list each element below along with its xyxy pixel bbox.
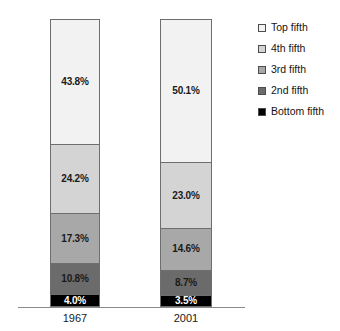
legend-item-label: 3rd fifth <box>271 64 306 75</box>
bar-segment-1967-2nd-fifth[interactable]: 10.8% <box>51 264 99 295</box>
legend-item-top-fifth[interactable]: Top fifth <box>258 17 340 38</box>
segment-value-label: 10.8% <box>61 274 88 284</box>
legend-item-label: Top fifth <box>271 22 308 33</box>
bar-segment-1967-top-fifth[interactable]: 43.8% <box>51 20 99 145</box>
segment-value-label: 4.0% <box>64 296 86 306</box>
x-axis-baseline <box>18 307 245 308</box>
segment-value-label: 8.7% <box>175 278 197 288</box>
segment-value-label: 24.2% <box>61 174 88 184</box>
segment-value-label: 17.3% <box>61 234 88 244</box>
legend-swatch-icon <box>258 108 266 116</box>
legend-swatch-icon <box>258 24 266 32</box>
legend: Top fifth 4th fifth 3rd fifth 2nd fifth … <box>258 17 340 122</box>
plot-area: 43.8% 24.2% 17.3% 10.8% 4.0% 50.1% 23.0% <box>0 0 250 331</box>
stacked-bar-1967[interactable]: 43.8% 24.2% 17.3% 10.8% 4.0% <box>50 19 100 307</box>
bar-segment-1967-4th-fifth[interactable]: 24.2% <box>51 145 99 214</box>
chart-figure: 43.8% 24.2% 17.3% 10.8% 4.0% 50.1% 23.0% <box>0 0 340 331</box>
legend-item-label: 2nd fifth <box>271 85 308 96</box>
bar-segment-2001-top-fifth[interactable]: 50.1% <box>161 20 211 163</box>
legend-item-2nd-fifth[interactable]: 2nd fifth <box>258 80 340 101</box>
legend-swatch-icon <box>258 66 266 74</box>
segment-value-label: 23.0% <box>172 191 199 201</box>
segment-value-label: 14.6% <box>172 244 199 254</box>
x-axis-tick-label-2001: 2001 <box>146 311 226 325</box>
legend-item-label: 4th fifth <box>271 43 305 54</box>
legend-item-4th-fifth[interactable]: 4th fifth <box>258 38 340 59</box>
bar-segment-2001-2nd-fifth[interactable]: 8.7% <box>161 271 211 296</box>
legend-item-bottom-fifth[interactable]: Bottom fifth <box>258 101 340 122</box>
bar-segment-2001-4th-fifth[interactable]: 23.0% <box>161 163 211 229</box>
legend-item-label: Bottom fifth <box>271 106 324 117</box>
bar-segment-2001-3rd-fifth[interactable]: 14.6% <box>161 229 211 271</box>
segment-value-label: 50.1% <box>172 86 199 96</box>
stacked-bar-2001[interactable]: 50.1% 23.0% 14.6% 8.7% 3.5% <box>160 19 212 307</box>
x-axis-tick-label-1967: 1967 <box>35 311 115 325</box>
bar-segment-1967-3rd-fifth[interactable]: 17.3% <box>51 214 99 263</box>
legend-item-3rd-fifth[interactable]: 3rd fifth <box>258 59 340 80</box>
legend-swatch-icon <box>258 87 266 95</box>
bar-segment-1967-bottom-fifth[interactable]: 4.0% <box>51 295 99 306</box>
segment-value-label: 43.8% <box>61 77 88 87</box>
legend-swatch-icon <box>258 45 266 53</box>
segment-value-label: 3.5% <box>175 296 197 306</box>
bar-segment-2001-bottom-fifth[interactable]: 3.5% <box>161 296 211 306</box>
